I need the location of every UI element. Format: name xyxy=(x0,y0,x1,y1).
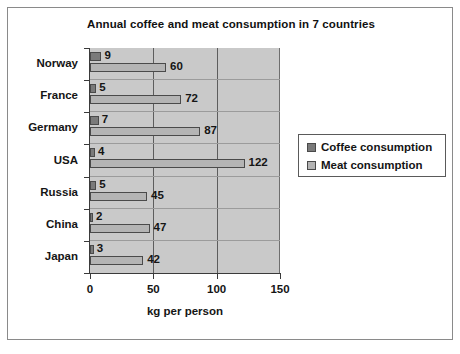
bar-coffee-france[interactable] xyxy=(90,84,96,93)
y-tick xyxy=(84,177,89,178)
bar-meat-france[interactable] xyxy=(90,95,181,104)
category-label-china: China xyxy=(7,218,78,230)
category-label-germany: Germany xyxy=(7,121,78,133)
bar-group-norway: 960 xyxy=(90,48,280,80)
bar-group-germany: 787 xyxy=(90,112,280,144)
category-label-russia: Russia xyxy=(7,186,78,198)
y-tick xyxy=(84,273,89,274)
bar-value-coffee-china: 2 xyxy=(96,211,102,222)
x-tick-label-100: 100 xyxy=(207,283,226,295)
category-label-norway: Norway xyxy=(7,57,78,69)
bar-group-japan: 342 xyxy=(90,241,280,273)
bar-value-meat-norway: 60 xyxy=(170,61,183,72)
y-tick xyxy=(84,112,89,113)
bar-value-coffee-usa: 4 xyxy=(98,146,104,157)
bar-value-meat-germany: 87 xyxy=(204,125,217,136)
bar-group-usa: 4122 xyxy=(90,144,280,176)
category-label-japan: Japan xyxy=(7,250,78,262)
chart-frame: Annual coffee and meat consumption in 7 … xyxy=(7,7,453,340)
category-label-france: France xyxy=(7,89,78,101)
bar-group-russia: 545 xyxy=(90,177,280,209)
legend-label-meat: Meat consumption xyxy=(321,159,423,171)
bar-value-coffee-russia: 5 xyxy=(99,179,105,190)
y-tick xyxy=(84,241,89,242)
x-tick-label-150: 150 xyxy=(270,283,289,295)
y-axis-line xyxy=(89,48,90,274)
legend-swatch-meat-icon xyxy=(307,161,316,170)
bar-coffee-norway[interactable] xyxy=(90,52,101,61)
legend-label-coffee: Coffee consumption xyxy=(321,141,432,153)
x-tick-150 xyxy=(280,274,281,279)
legend-item-meat[interactable]: Meat consumption xyxy=(307,158,423,172)
legend-swatch-coffee-icon xyxy=(307,143,316,152)
x-tick-label-0: 0 xyxy=(87,283,93,295)
bar-meat-usa[interactable] xyxy=(90,159,245,168)
bar-meat-norway[interactable] xyxy=(90,63,166,72)
x-axis-line xyxy=(90,273,281,274)
bar-meat-russia[interactable] xyxy=(90,192,147,201)
bar-coffee-japan[interactable] xyxy=(90,245,94,254)
bar-value-meat-usa: 122 xyxy=(249,157,268,168)
bar-coffee-russia[interactable] xyxy=(90,181,96,190)
bar-coffee-usa[interactable] xyxy=(90,148,95,157)
category-label-usa: USA xyxy=(7,154,78,166)
bar-group-china: 247 xyxy=(90,209,280,241)
bar-value-meat-france: 72 xyxy=(185,93,198,104)
x-axis-title: kg per person xyxy=(90,305,280,317)
bar-value-meat-china: 47 xyxy=(154,222,167,233)
x-tick-label-50: 50 xyxy=(147,283,160,295)
bar-value-coffee-japan: 3 xyxy=(97,243,103,254)
bar-meat-china[interactable] xyxy=(90,224,150,233)
bar-coffee-china[interactable] xyxy=(90,213,93,222)
y-tick xyxy=(84,80,89,81)
x-tick-0 xyxy=(90,274,91,279)
bar-meat-germany[interactable] xyxy=(90,127,200,136)
legend-item-coffee[interactable]: Coffee consumption xyxy=(307,140,432,154)
bar-group-france: 572 xyxy=(90,80,280,112)
bar-value-coffee-germany: 7 xyxy=(102,114,108,125)
bar-meat-japan[interactable] xyxy=(90,256,143,265)
chart-legend: Coffee consumption Meat consumption xyxy=(298,134,446,177)
x-tick-50 xyxy=(153,274,154,279)
bar-value-coffee-norway: 9 xyxy=(104,50,110,61)
chart-title: Annual coffee and meat consumption in 7 … xyxy=(8,18,453,30)
y-tick xyxy=(84,209,89,210)
bar-value-meat-russia: 45 xyxy=(151,190,164,201)
plot-area: 9605727874122545247342 xyxy=(90,48,280,273)
bar-value-coffee-france: 5 xyxy=(99,82,105,93)
bar-value-meat-japan: 42 xyxy=(147,254,160,265)
x-tick-100 xyxy=(217,274,218,279)
y-tick xyxy=(84,48,89,49)
y-tick xyxy=(84,144,89,145)
bar-coffee-germany[interactable] xyxy=(90,116,99,125)
